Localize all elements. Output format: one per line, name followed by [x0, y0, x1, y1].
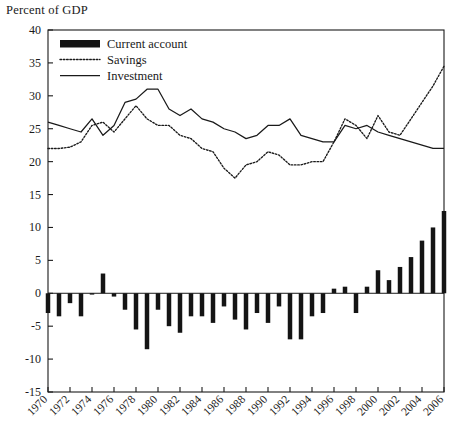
x-tick-label: 1978: [113, 393, 138, 418]
x-tick-label: 2004: [399, 393, 424, 418]
bar-current-account: [442, 211, 446, 293]
bars-series-current-account: [46, 211, 446, 349]
y-tick-label: 10: [29, 220, 41, 234]
y-tick-label: 25: [29, 122, 41, 136]
bar-current-account: [79, 293, 83, 316]
bar-current-account: [310, 293, 314, 316]
x-tick-label: 1998: [333, 393, 358, 418]
bar-current-account: [266, 293, 270, 323]
line-series-group: [48, 66, 444, 178]
bar-current-account: [343, 287, 347, 294]
bar-current-account: [354, 293, 358, 313]
y-tick-label: 15: [29, 188, 41, 202]
bar-current-account: [365, 287, 369, 294]
legend-swatch-current-account: [60, 40, 100, 48]
bar-current-account: [90, 293, 94, 294]
y-tick-label: 5: [35, 253, 41, 267]
bar-current-account: [68, 293, 72, 303]
bar-current-account: [431, 227, 435, 293]
bar-current-account: [233, 293, 237, 319]
bar-current-account: [321, 293, 325, 313]
x-tick-label: 1990: [245, 393, 270, 418]
x-tick-label: 1992: [267, 393, 292, 418]
bar-current-account: [112, 293, 116, 296]
x-tick-label: 1982: [157, 393, 182, 418]
bar-current-account: [398, 267, 402, 293]
line-investment: [48, 89, 444, 148]
chart-plot-area: -15-10-50510152025303540 197019721974197…: [0, 0, 460, 432]
bar-current-account: [200, 293, 204, 316]
x-tick-label: 1974: [69, 393, 94, 418]
x-tick-label: 2002: [377, 393, 402, 418]
x-tick-label: 1986: [201, 393, 226, 418]
bar-current-account: [299, 293, 303, 339]
y-tick-label: 30: [29, 89, 41, 103]
bar-current-account: [409, 257, 413, 293]
y-tick-label: 40: [29, 23, 41, 37]
line-savings: [48, 66, 444, 178]
chart-legend: Current accountSavingsInvestment: [60, 37, 188, 83]
y-tick-label: 35: [29, 56, 41, 70]
y-tick-label: -10: [25, 352, 41, 366]
bar-current-account: [134, 293, 138, 329]
bar-current-account: [101, 274, 105, 294]
bar-current-account: [244, 293, 248, 329]
bar-current-account: [211, 293, 215, 323]
y-tick-label: -5: [31, 319, 41, 333]
x-tick-label: 1996: [311, 393, 336, 418]
legend-label: Investment: [107, 69, 163, 83]
bar-current-account: [332, 289, 336, 294]
bar-current-account: [123, 293, 127, 309]
legend-label: Current account: [107, 37, 188, 51]
x-tick-label: 1972: [47, 393, 72, 418]
bar-current-account: [57, 293, 61, 316]
bar-current-account: [420, 241, 424, 294]
x-tick-label: 1988: [223, 393, 248, 418]
bar-current-account: [277, 293, 281, 306]
bar-current-account: [222, 293, 226, 306]
bar-current-account: [46, 293, 50, 313]
x-tick-label: 1980: [135, 393, 160, 418]
x-tick-label: 2006: [421, 393, 446, 418]
y-tick-label: 20: [29, 155, 41, 169]
bar-current-account: [156, 293, 160, 309]
chart-figure: Percent of GDP -15-10-50510152025303540 …: [0, 0, 460, 432]
bar-current-account: [189, 293, 193, 316]
bar-current-account: [178, 293, 182, 332]
legend-label: Savings: [107, 53, 147, 67]
x-tick-label: 1984: [179, 393, 204, 418]
y-axis-ticks: -15-10-50510152025303540: [25, 23, 53, 399]
x-tick-label: 1976: [91, 393, 116, 418]
y-tick-label: 0: [35, 286, 41, 300]
x-tick-label: 1994: [289, 393, 314, 418]
bar-current-account: [167, 293, 171, 326]
axes-group: [48, 30, 444, 392]
bar-current-account: [387, 280, 391, 293]
bar-current-account: [376, 270, 380, 293]
x-tick-label: 2000: [355, 393, 380, 418]
bar-current-account: [255, 293, 259, 313]
bar-current-account: [145, 293, 149, 349]
bar-current-account: [288, 293, 292, 339]
